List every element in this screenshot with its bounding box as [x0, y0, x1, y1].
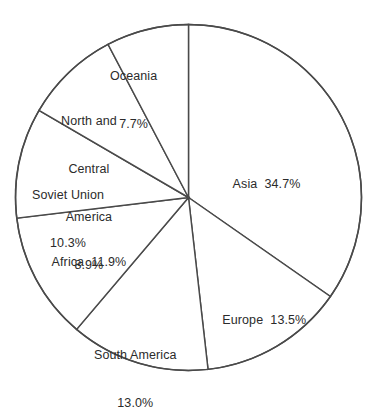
slice-label-south-america-value: 13.0%	[94, 395, 177, 411]
slice-label-asia-text: Asia 34.7%	[233, 177, 301, 191]
slice-label-europe-text: Europe 13.5%	[222, 313, 306, 327]
slice-label-north-and-central-america-name-1: North and	[61, 113, 117, 129]
slice-label-north-and-central-america-name-2: Central	[61, 161, 117, 177]
slice-label-north-and-central-america: North and Central America 8.9%	[61, 81, 117, 305]
slice-label-asia: Asia 34.7%	[219, 160, 300, 208]
slice-label-oceania-value: 7.7%	[110, 116, 157, 132]
slice-label-south-america: South America 13.0%	[94, 315, 177, 411]
slice-label-oceania: Oceania 7.7%	[110, 36, 157, 164]
slice-label-north-and-central-america-name-3: America	[61, 209, 117, 225]
slice-label-oceania-name: Oceania	[110, 68, 157, 84]
slice-label-europe: Europe 13.5%	[208, 296, 306, 344]
slice-label-north-and-central-america-value: 8.9%	[61, 257, 117, 273]
slice-label-south-america-name: South America	[94, 347, 177, 363]
